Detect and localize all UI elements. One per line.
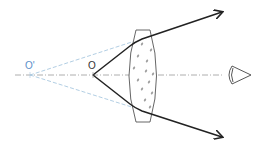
eye-icon bbox=[229, 66, 251, 84]
lower-extension-line bbox=[30, 75, 138, 109]
upper-extension-line bbox=[30, 40, 138, 75]
upper-ray bbox=[93, 12, 222, 75]
virtual-image-label: O' bbox=[25, 61, 35, 71]
lower-ray bbox=[93, 75, 222, 137]
object-label: O bbox=[88, 61, 96, 71]
ray-diagram bbox=[0, 0, 264, 149]
